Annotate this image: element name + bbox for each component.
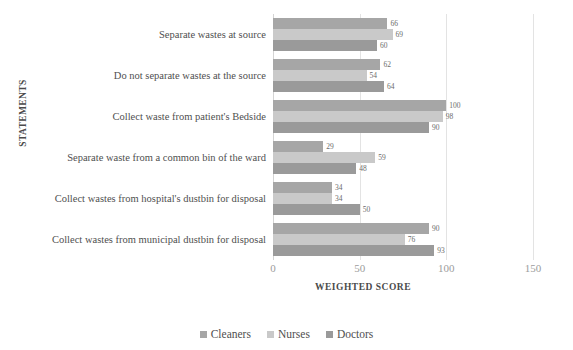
x-tick-label: 100: [438, 262, 455, 274]
category-label: Separate waste from a common bin of the …: [26, 152, 266, 164]
gridline-100: [446, 14, 447, 260]
category-label: Collect wastes from hospital's dustbin f…: [26, 193, 266, 205]
bar: [273, 163, 356, 174]
bar-value-label: 59: [378, 152, 386, 163]
legend-item-doctors[interactable]: Doctors: [326, 328, 373, 340]
legend-item-cleaners[interactable]: Cleaners: [200, 328, 251, 340]
bar: [273, 245, 434, 256]
bar: [273, 70, 367, 81]
bar: [273, 59, 380, 70]
bar-texture: [273, 245, 434, 256]
bar-texture: [273, 163, 356, 174]
bar-value-label: 50: [363, 204, 371, 215]
legend-swatch-icon: [326, 331, 333, 338]
bar-texture: [273, 81, 384, 92]
category-axis-labels: Separate wastes at sourceDo not separate…: [28, 14, 270, 260]
bar-value-label: 69: [396, 29, 404, 40]
bar-value-label: 93: [437, 245, 445, 256]
legend-swatch-icon: [267, 331, 274, 338]
gridline-150: [533, 14, 534, 260]
bar-texture: [273, 70, 367, 81]
category-label: Do not separate wastes at the source: [26, 70, 266, 82]
bar-texture: [273, 40, 377, 51]
bar-chart: STATEMENTS Separate wastes at sourceDo n…: [0, 0, 573, 350]
bar-value-label: 98: [446, 111, 454, 122]
bar-texture: [273, 100, 446, 111]
bar: [273, 234, 405, 245]
x-axis-title: WEIGHTED SCORE: [273, 282, 453, 292]
legend-label: Doctors: [337, 328, 373, 340]
plot-area: 6669606254641009890295948343450907693: [273, 14, 533, 260]
legend-label: Nurses: [278, 328, 310, 340]
bar: [273, 40, 377, 51]
legend-item-nurses[interactable]: Nurses: [267, 328, 310, 340]
bar: [273, 223, 429, 234]
bar-texture: [273, 59, 380, 70]
bar-value-label: 90: [432, 122, 440, 133]
legend-label: Cleaners: [211, 328, 251, 340]
bar-value-label: 48: [359, 163, 367, 174]
bar-value-label: 54: [370, 70, 378, 81]
bar-texture: [273, 223, 429, 234]
bar-texture: [273, 193, 332, 204]
category-label: Separate wastes at source: [26, 29, 266, 41]
bar-texture: [273, 18, 387, 29]
x-tick-label: 150: [525, 262, 542, 274]
bar-texture: [273, 234, 405, 245]
bar-texture: [273, 111, 443, 122]
bar: [273, 141, 323, 152]
bar-value-label: 34: [335, 182, 343, 193]
bar-value-label: 66: [390, 18, 398, 29]
bar: [273, 122, 429, 133]
bar-texture: [273, 122, 429, 133]
bar-value-label: 100: [449, 100, 460, 111]
category-label: Collect waste from patient's Bedside: [26, 111, 266, 123]
bar: [273, 204, 360, 215]
chart-legend: CleanersNursesDoctors: [0, 328, 573, 340]
bar-texture: [273, 182, 332, 193]
x-axis-ticks: 050100150: [273, 262, 533, 278]
bar: [273, 18, 387, 29]
bar-texture: [273, 152, 375, 163]
bar-value-label: 62: [383, 59, 391, 70]
legend-swatch-icon: [200, 331, 207, 338]
bar-value-label: 90: [432, 223, 440, 234]
bar-value-label: 64: [387, 81, 395, 92]
bar: [273, 29, 393, 40]
bar-texture: [273, 204, 360, 215]
bar-value-label: 29: [326, 141, 334, 152]
x-tick-label: 0: [270, 262, 276, 274]
bar: [273, 81, 384, 92]
bar-value-label: 34: [335, 193, 343, 204]
bar-texture: [273, 141, 323, 152]
bar-texture: [273, 29, 393, 40]
bar: [273, 100, 446, 111]
bar-value-label: 76: [408, 234, 416, 245]
bar-value-label: 60: [380, 40, 388, 51]
bar: [273, 111, 443, 122]
bar: [273, 193, 332, 204]
category-label: Collect wastes from municipal dustbin fo…: [26, 234, 266, 246]
bar: [273, 152, 375, 163]
bar: [273, 182, 332, 193]
x-tick-label: 50: [354, 262, 365, 274]
